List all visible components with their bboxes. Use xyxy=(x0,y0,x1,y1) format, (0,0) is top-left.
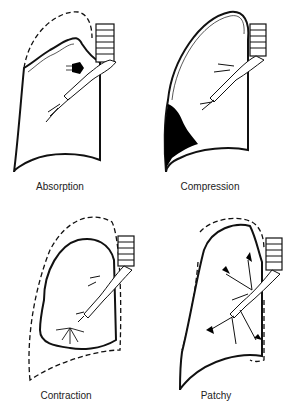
contraction-trachea xyxy=(118,236,134,266)
compression-lung xyxy=(165,12,266,172)
contraction-lung xyxy=(29,217,134,380)
absorption-lung xyxy=(14,12,116,172)
atelectasis-diagram xyxy=(0,0,298,407)
patchy-lung-outline xyxy=(180,225,262,390)
patchy-trachea xyxy=(266,238,282,270)
label-absorption: Absorption xyxy=(10,181,110,192)
absorption-collapsed-lung xyxy=(14,38,100,172)
patchy-lung xyxy=(180,218,282,390)
label-compression: Compression xyxy=(160,181,260,192)
label-patchy: Patchy xyxy=(166,390,266,401)
compression-trachea xyxy=(250,24,266,56)
label-contraction: Contraction xyxy=(16,390,116,401)
absorption-trachea xyxy=(96,24,114,62)
